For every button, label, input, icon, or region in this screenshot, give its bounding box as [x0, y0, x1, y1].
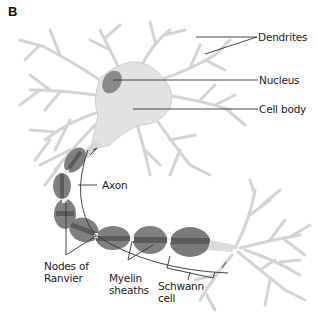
cell-body-shape — [90, 62, 172, 150]
label-schwann-cell: Schwann cell — [158, 280, 204, 304]
label-nucleus: Nucleus — [259, 74, 299, 86]
label-cell-body: Cell body — [259, 103, 306, 115]
label-nodes-of-ranvier: Nodes of Ranvier — [44, 260, 89, 284]
label-myelin-sheaths: Myelin sheaths — [109, 272, 149, 296]
label-axon: Axon — [102, 179, 127, 191]
label-dendrites: Dendrites — [258, 31, 307, 43]
